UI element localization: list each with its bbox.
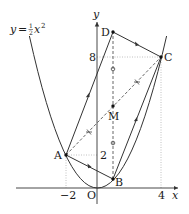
arrow-mark-bc: [134, 117, 138, 121]
tick-mark-am: [86, 130, 92, 135]
x-axis-label: x: [172, 189, 179, 202]
axes: [16, 22, 178, 204]
point-d: [111, 30, 114, 33]
equation-var: x: [34, 23, 41, 36]
y-tick-label-2: 2: [100, 149, 107, 162]
point-a: [64, 153, 67, 156]
x-tick-label-4: 4: [158, 189, 165, 202]
y-tick-label-8: 8: [89, 51, 96, 64]
point-m: [111, 104, 114, 107]
origin-label: O: [87, 189, 96, 202]
equation-fraction-den: 2: [29, 29, 33, 36]
parabola-curve: [29, 36, 166, 188]
label-a: A: [53, 149, 63, 162]
point-c: [159, 55, 162, 58]
y-axis-label: y: [92, 8, 100, 21]
tick-mark-mc: [134, 80, 140, 85]
equation-equals: =: [18, 23, 27, 36]
arrow-mark-ad: [86, 93, 90, 97]
parallelogram-parabola-diagram: A B C D M x y O −2 4 2 8 y = 1 2 x 2: [0, 0, 189, 214]
label-c: C: [164, 51, 172, 64]
equation-lhs: y: [9, 23, 17, 36]
label-m: M: [108, 110, 119, 123]
x-tick-label-neg2: −2: [60, 189, 76, 202]
equation-label: y = 1 2 x 2: [9, 22, 45, 36]
equation-exponent: 2: [41, 22, 45, 30]
label-d: D: [101, 26, 110, 39]
equation-fraction-num: 1: [29, 22, 33, 29]
label-b: B: [115, 176, 123, 189]
